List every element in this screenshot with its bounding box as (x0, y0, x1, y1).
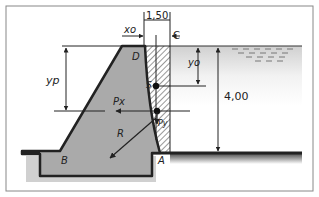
centroid-label: S (146, 80, 152, 90)
water-height-dimension: 4,00 (224, 90, 249, 103)
px-label: Px (113, 96, 125, 107)
py-label: Py (158, 119, 168, 128)
crest-right-label: C (173, 30, 180, 41)
dam-diagram: 1,50 xo C yp yo 4,00 S Px Py R D B A (0, 0, 319, 197)
ground-line-left (22, 150, 40, 154)
toe-label: B (61, 155, 68, 166)
resultant-label: R (117, 128, 124, 139)
centroid-point (153, 83, 159, 89)
yo-label: yo (187, 57, 200, 68)
top-width-dimension: 1,50 (146, 10, 168, 21)
yp-label: yp (45, 74, 60, 87)
crest-left-label: D (132, 51, 140, 62)
ground-shadow (170, 154, 302, 164)
heel-label: A (157, 155, 165, 166)
xo-label: xo (123, 24, 136, 35)
